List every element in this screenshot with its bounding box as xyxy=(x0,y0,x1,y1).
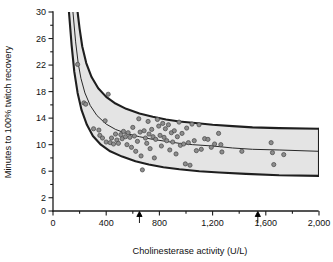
data-point xyxy=(129,145,133,149)
data-point xyxy=(212,142,216,146)
y-tick-label: 6 xyxy=(41,166,46,176)
data-point xyxy=(113,132,117,136)
data-point xyxy=(171,140,175,144)
data-point xyxy=(140,168,144,172)
data-point xyxy=(126,131,130,135)
data-point xyxy=(220,150,224,154)
data-point xyxy=(76,62,80,66)
data-point xyxy=(103,119,107,123)
x-tick-label: 0 xyxy=(50,218,55,228)
data-point xyxy=(219,143,223,147)
y-axis-title: Minutes to 100% twitch recovery xyxy=(3,45,13,178)
data-point xyxy=(206,137,210,141)
data-point xyxy=(142,129,146,133)
data-point xyxy=(125,143,129,147)
data-point xyxy=(168,148,172,152)
data-point xyxy=(145,141,149,145)
data-point xyxy=(185,126,189,130)
data-point xyxy=(159,144,163,148)
arrow-head xyxy=(137,212,142,217)
y-tick-label: 22 xyxy=(36,60,46,70)
data-point xyxy=(199,147,203,151)
data-point xyxy=(91,127,95,131)
data-point xyxy=(158,133,162,137)
data-point xyxy=(147,132,151,136)
data-point xyxy=(154,137,158,141)
data-point xyxy=(163,127,167,131)
data-point xyxy=(150,127,154,131)
data-point xyxy=(166,123,170,127)
data-point xyxy=(197,123,201,127)
data-point xyxy=(180,131,184,135)
data-point xyxy=(209,145,213,149)
data-point xyxy=(146,119,150,123)
data-point xyxy=(165,139,169,143)
y-tick-label: 26 xyxy=(36,34,46,44)
data-point xyxy=(157,124,161,128)
data-point xyxy=(148,147,152,151)
data-point xyxy=(216,131,220,135)
data-point xyxy=(106,92,110,96)
x-tick-label: 1,200 xyxy=(201,218,224,228)
data-point xyxy=(134,149,138,153)
x-tick-label: 800 xyxy=(152,218,167,228)
scatter-plot-svg: 026101418222630 04008001,2001,6002,000 C… xyxy=(0,0,333,262)
y-tick-label: 18 xyxy=(36,87,46,97)
data-point xyxy=(132,134,136,138)
y-tick-label: 2 xyxy=(41,193,46,203)
data-point xyxy=(135,139,139,143)
data-point xyxy=(84,102,88,106)
chart-figure: 026101418222630 04008001,2001,6002,000 C… xyxy=(0,0,333,262)
data-point xyxy=(240,149,244,153)
y-tick-label: 0 xyxy=(41,206,46,216)
data-point xyxy=(121,129,125,133)
data-point xyxy=(190,122,194,126)
data-point xyxy=(282,153,286,157)
lower-reference-arrow xyxy=(137,212,142,224)
data-point xyxy=(152,156,156,160)
data-point xyxy=(97,128,101,132)
data-point xyxy=(143,136,147,140)
data-point xyxy=(131,125,135,129)
data-point xyxy=(270,151,274,155)
data-point xyxy=(137,117,141,121)
x-tick-label: 400 xyxy=(99,218,114,228)
data-point xyxy=(192,139,196,143)
data-point xyxy=(175,135,179,139)
data-point xyxy=(104,140,108,144)
x-tick-label: 2,000 xyxy=(308,218,331,228)
arrow-head xyxy=(255,212,260,217)
data-point xyxy=(186,141,190,145)
data-point xyxy=(100,136,104,140)
y-tick-label: 10 xyxy=(36,140,46,150)
data-point xyxy=(177,120,181,124)
data-point xyxy=(182,142,186,146)
x-axis-ticks xyxy=(53,211,319,216)
data-point xyxy=(269,141,273,145)
data-point xyxy=(272,162,276,166)
y-axis-ticks xyxy=(49,12,54,211)
data-point xyxy=(194,149,198,153)
data-point xyxy=(172,129,176,133)
y-tick-label: 30 xyxy=(36,7,46,17)
y-tick-label: 14 xyxy=(36,113,46,123)
data-point xyxy=(128,135,132,139)
data-point xyxy=(138,130,142,134)
x-axis-tick-labels: 04008001,2001,6002,000 xyxy=(50,218,330,228)
data-point xyxy=(174,152,178,156)
data-point xyxy=(139,154,143,158)
data-point xyxy=(161,121,165,125)
data-point xyxy=(111,142,115,146)
data-point xyxy=(123,135,127,139)
data-point xyxy=(183,162,187,166)
data-point xyxy=(109,136,113,140)
x-axis-title: Cholinesterase activity (U/L) xyxy=(133,246,248,256)
data-point xyxy=(188,163,192,167)
data-point xyxy=(116,141,120,145)
data-point xyxy=(155,117,159,121)
y-axis-tick-labels: 026101418222630 xyxy=(36,7,46,216)
